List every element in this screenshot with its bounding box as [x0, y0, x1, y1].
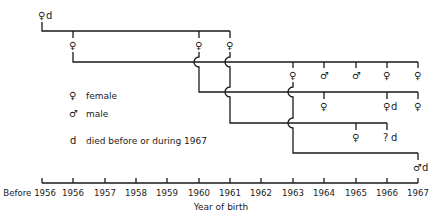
female-icon: ♀ [320, 101, 327, 112]
tick-label: 1956 [62, 188, 84, 198]
male-icon: ♂ [69, 108, 78, 119]
tick-label: 1961 [219, 188, 241, 198]
female-icon: ♀ [383, 101, 390, 112]
died-mark: d [422, 162, 428, 173]
male-icon: ♂ [320, 70, 329, 81]
male-icon: ♂ [352, 70, 361, 81]
male-icon: ♂ [413, 162, 422, 173]
tick-label: Before 1956 [3, 188, 56, 198]
female-icon: ♀ [69, 90, 76, 101]
female-icon: ♀ [289, 70, 296, 81]
died-mark: d [46, 10, 52, 21]
female-icon: ♀ [38, 10, 45, 21]
female-icon: ♀ [414, 70, 421, 81]
died-mark: d [391, 132, 397, 143]
legend-male-label: male [86, 109, 109, 119]
female-icon: ♀ [352, 132, 359, 143]
legend-died-label: died before or during 1967 [86, 136, 207, 146]
tick-label: 1963 [282, 188, 304, 198]
tick-label: 1960 [188, 188, 210, 198]
x-axis: Before 1956 1956 1957 1958 1959 1960 196… [3, 178, 429, 212]
tick-label: 1957 [94, 188, 116, 198]
tick-label: 1964 [313, 188, 335, 198]
died-mark: d [70, 135, 76, 146]
female-icon: ♀ [195, 40, 202, 51]
died-mark: d [391, 101, 397, 112]
female-icon: ♀ [414, 101, 421, 112]
axis-title: Year of birth [193, 202, 249, 212]
female-icon: ♀ [226, 40, 233, 51]
tick-label: 1958 [125, 188, 147, 198]
female-icon: ♀ [69, 40, 76, 51]
pedigree-diagram: ♀ d ♀ ♀ ♀ ♀ ♂ ♂ ♀ ♀ ♀ ♀ d ♀ ♀ ? d ♂ d ♀ … [0, 0, 437, 217]
unknown-sex-icon: ? [383, 132, 388, 143]
tick-label: 1959 [156, 188, 178, 198]
legend-female-label: female [86, 91, 117, 101]
tick-label: 1967 [407, 188, 429, 198]
tick-label: 1966 [376, 188, 398, 198]
legend: ♀ female ♂ male d died before or during … [69, 90, 207, 146]
female-icon: ♀ [383, 70, 390, 81]
tick-label: 1965 [345, 188, 367, 198]
tick-label: 1962 [250, 188, 272, 198]
